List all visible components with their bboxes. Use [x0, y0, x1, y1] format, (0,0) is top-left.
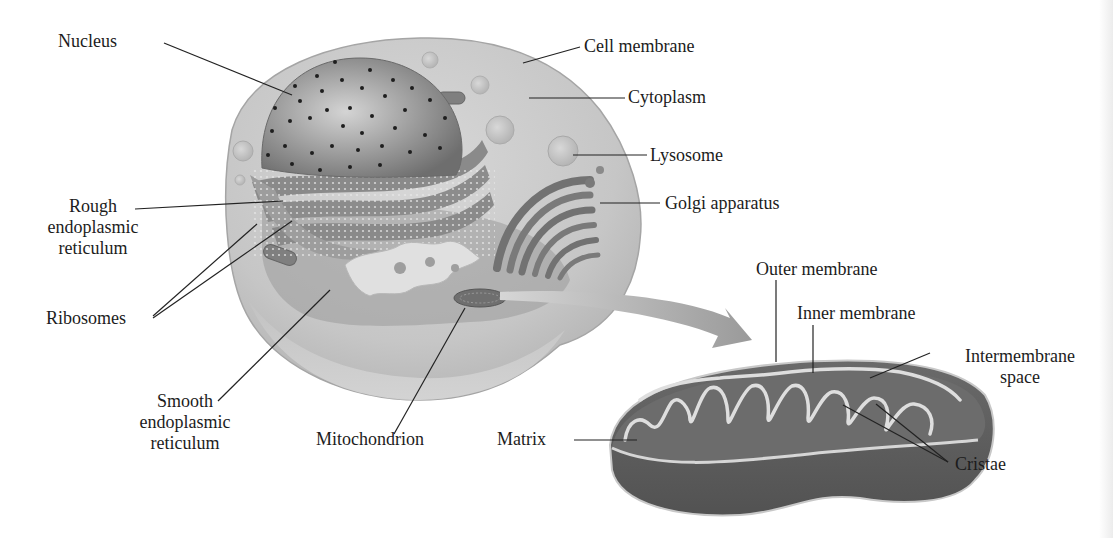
label-intermembrane-space: Intermembrane space: [930, 346, 1110, 388]
leader-cell-membrane: [523, 47, 580, 63]
leader-nucleus: [164, 43, 292, 95]
label-cytoplasm: Cytoplasm: [628, 87, 706, 108]
label-cell-membrane: Cell membrane: [584, 36, 694, 57]
label-matrix: Matrix: [497, 429, 546, 450]
label-nucleus: Nucleus: [58, 31, 117, 52]
label-outer-membrane: Outer membrane: [756, 259, 877, 280]
label-mitochondrion: Mitochondrion: [316, 429, 424, 450]
label-cristae: Cristae: [955, 454, 1006, 475]
label-ribosomes: Ribosomes: [46, 308, 126, 329]
cell-diagram: Nucleus Cell membrane Cytoplasm Lysosome…: [0, 0, 1113, 538]
page-edge-shadow: [1099, 0, 1113, 538]
diagram-artwork: [0, 0, 1113, 538]
label-inner-membrane: Inner membrane: [797, 303, 915, 324]
label-lysosome: Lysosome: [650, 145, 723, 166]
label-golgi-apparatus: Golgi apparatus: [665, 193, 779, 214]
label-rough-er: Rough endoplasmic reticulum: [28, 196, 158, 259]
label-smooth-er: Smooth endoplasmic reticulum: [120, 391, 250, 454]
